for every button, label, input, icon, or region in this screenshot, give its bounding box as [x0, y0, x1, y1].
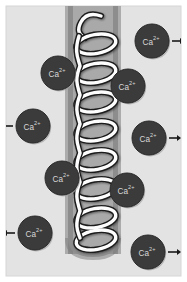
- ion-charge-superscript: 2+: [150, 132, 156, 138]
- ion-charge-superscript: 2+: [129, 80, 135, 86]
- ion-charge-superscript: 2+: [34, 120, 40, 126]
- ion-charge-superscript: 2+: [59, 67, 65, 73]
- figure-root: Ca2+Ca2+Ca2+Ca2+Ca2+Ca2+Ca2+Ca2+Ca2+: [0, 0, 187, 282]
- ion-charge-superscript: 2+: [63, 172, 69, 178]
- ion-charge-superscript: 2+: [128, 184, 134, 190]
- ion-element-symbol: Ca: [119, 82, 130, 91]
- ion-element-symbol: Ca: [140, 134, 151, 143]
- ion-element-symbol: Ca: [49, 69, 60, 78]
- ion-channel-diagram: Ca2+Ca2+Ca2+Ca2+Ca2+Ca2+Ca2+Ca2+Ca2+: [0, 0, 187, 282]
- ion-element-symbol: Ca: [139, 248, 150, 257]
- ion-charge-superscript: 2+: [36, 227, 42, 233]
- ion-charge-superscript: 2+: [153, 35, 159, 41]
- ion-element-symbol: Ca: [118, 186, 129, 195]
- ion-charge-superscript: 2+: [149, 246, 155, 252]
- ion-element-symbol: Ca: [24, 122, 35, 131]
- ion-element-symbol: Ca: [143, 37, 154, 46]
- ion-element-symbol: Ca: [53, 174, 64, 183]
- ion-element-symbol: Ca: [26, 229, 37, 238]
